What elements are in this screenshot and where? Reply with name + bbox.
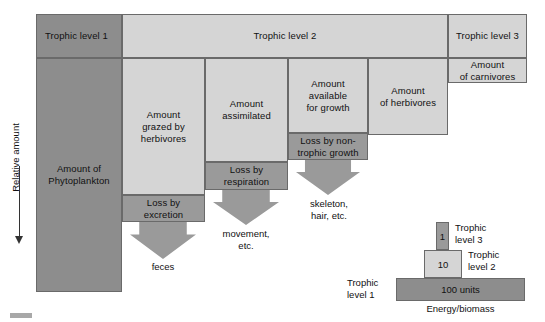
block-amount-assimilated: Amount assimilated [205, 58, 288, 162]
diagram-canvas: Relative amount Trophic level 1 Trophic … [0, 0, 545, 322]
label-skeleton: skeleton, hair, etc. [294, 198, 364, 222]
block-amount-of-herbivores: Amount of herbivores [368, 58, 448, 135]
label-feces: feces [133, 261, 193, 273]
arrow-skeleton-icon [296, 160, 360, 195]
pyramid-level-1: 100 units [396, 278, 525, 301]
block-amount-of-phytoplankton: Amount of Phytoplankton [36, 58, 122, 292]
corner-mark [10, 313, 32, 318]
y-axis-line [19, 166, 20, 238]
pyramid-level-2: 10 [424, 250, 462, 278]
header-trophic-level-3: Trophic level 3 [448, 14, 527, 58]
block-loss-by-excretion: Loss by excretion [122, 195, 205, 222]
pyramid-level-3-label: Trophic level 3 [455, 222, 503, 246]
arrow-feces-icon [130, 222, 196, 259]
header-trophic-level-1: Trophic level 1 [36, 14, 122, 58]
block-amount-available-for-growth: Amount available for growth [288, 58, 368, 133]
header-trophic-level-2: Trophic level 2 [122, 14, 448, 58]
arrow-movement-icon [213, 190, 279, 225]
block-loss-by-non-trophic-growth: Loss by non- trophic growth [288, 133, 368, 160]
label-movement: movement, etc. [212, 228, 280, 252]
pyramid-level-3: 1 [436, 222, 449, 250]
pyramid-level-2-label: Trophic level 2 [468, 249, 516, 273]
y-axis-arrow-icon [15, 236, 23, 244]
block-loss-by-respiration: Loss by respiration [205, 162, 288, 190]
block-amount-of-carnivores: Amount of carnivores [448, 58, 527, 83]
block-amount-grazed-by-herbivores: Amount grazed by herbivores [122, 58, 205, 195]
y-axis: Relative amount [6, 104, 28, 256]
pyramid-level-1-label: Trophic level 1 [347, 277, 395, 301]
pyramid-caption: Energy/biomass [396, 303, 525, 315]
